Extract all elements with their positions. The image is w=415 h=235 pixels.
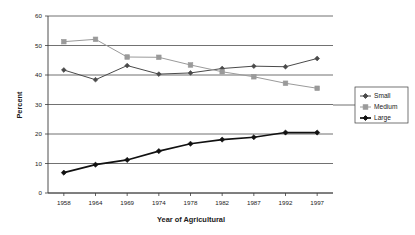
data-point: [315, 56, 320, 61]
y-tick-label: 40: [35, 71, 42, 78]
x-tick-label: 1987: [247, 199, 261, 206]
data-point: [93, 162, 98, 167]
data-point: [61, 68, 66, 73]
data-point: [220, 69, 225, 74]
data-point: [62, 39, 67, 44]
data-point: [251, 64, 256, 69]
data-point: [61, 170, 66, 175]
chart-container: 0102030405060 19581964196919741978198219…: [0, 0, 415, 235]
data-point: [156, 149, 161, 154]
data-point: [315, 86, 320, 91]
y-tick-label: 0: [39, 189, 43, 196]
data-point: [93, 77, 98, 82]
legend-label: Medium: [374, 103, 398, 110]
data-point: [125, 55, 130, 60]
x-axis-tick-labels: 195819641969197419781982198719921997: [57, 199, 325, 206]
y-axis-title: Percent: [15, 91, 24, 119]
data-point: [125, 63, 130, 68]
data-series-group: [61, 37, 320, 175]
data-point: [252, 74, 257, 79]
x-tick-label: 1992: [279, 199, 293, 206]
series-medium: [62, 37, 320, 91]
data-point: [283, 81, 288, 86]
y-tick-label: 20: [35, 130, 42, 137]
data-point: [188, 141, 193, 146]
tickmarks-group: [45, 16, 317, 196]
y-axis-tick-labels: 0102030405060: [35, 12, 42, 196]
data-point: [125, 157, 130, 162]
x-axis-title: Year of Agricultural: [157, 215, 225, 224]
series-large: [61, 130, 320, 175]
y-tick-label: 60: [35, 12, 42, 19]
y-tick-label: 10: [35, 160, 42, 167]
data-point: [93, 37, 98, 42]
line-chart: 0102030405060 19581964196919741978198219…: [0, 0, 415, 235]
data-point: [188, 63, 193, 68]
data-point: [157, 55, 162, 60]
series-line: [64, 58, 317, 79]
x-tick-label: 1997: [310, 199, 324, 206]
legend: SmallMediumLarge: [333, 87, 408, 123]
legend-label: Large: [374, 114, 391, 122]
x-tick-label: 1982: [215, 199, 229, 206]
legend-marker-icon: [363, 105, 367, 109]
y-tick-label: 50: [35, 42, 42, 49]
legend-label: Small: [374, 92, 391, 99]
x-tick-label: 1974: [152, 199, 166, 206]
y-tick-label: 30: [35, 101, 42, 108]
legend-item-medium[interactable]: Medium: [360, 103, 398, 110]
x-tick-label: 1964: [89, 199, 103, 206]
data-point: [251, 135, 256, 140]
data-point: [220, 137, 225, 142]
data-point: [283, 64, 288, 69]
x-tick-label: 1978: [184, 199, 198, 206]
series-line: [64, 133, 317, 173]
series-small: [61, 56, 319, 82]
x-tick-label: 1958: [57, 199, 71, 206]
x-tick-label: 1969: [120, 199, 134, 206]
data-point: [156, 72, 161, 77]
